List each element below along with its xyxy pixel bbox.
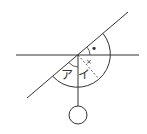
angle-label-i: イ [78,68,90,82]
dot-mark: • [91,42,98,55]
plumb-weight [69,106,87,124]
cross-mark: × [86,58,92,66]
small-angle-arc-top [87,47,90,55]
protractor-incline-diagram: • × ア イ [0,0,147,134]
angle-label-a: ア [61,68,73,82]
small-angle-arc-bottom [69,63,78,67]
